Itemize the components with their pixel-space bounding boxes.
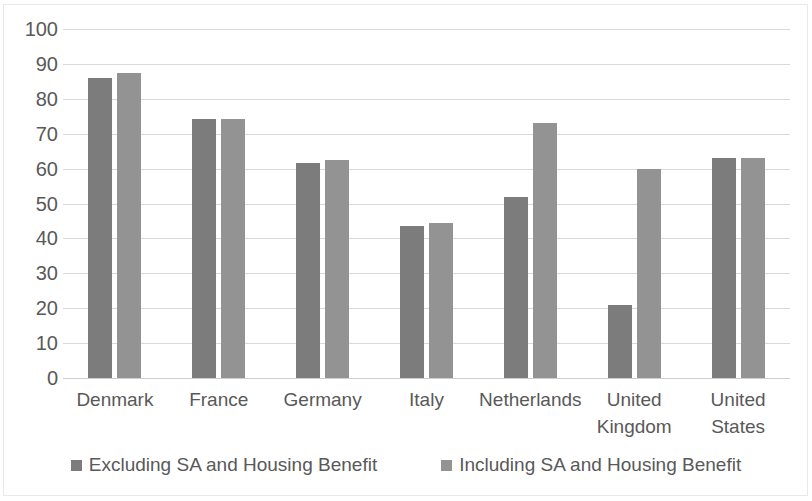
y-axis-tick-label: 10: [0, 333, 58, 353]
x-axis-tick-label: Germany: [271, 386, 375, 413]
y-axis: 1009080706050403020100: [0, 29, 58, 378]
y-axis-tick-label: 60: [0, 159, 58, 179]
y-axis-tick-label: 80: [0, 89, 58, 109]
x-axis-tick-label: France: [167, 386, 271, 413]
bar: [88, 78, 112, 378]
chart-legend: Excluding SA and Housing BenefitIncludin…: [0, 455, 812, 474]
bar: [296, 163, 320, 378]
x-axis-tick-label: Netherlands: [478, 386, 582, 413]
legend-swatch-icon: [71, 460, 82, 471]
y-axis-tick-label: 50: [0, 194, 58, 214]
x-axis-tick-label: United Kingdom: [582, 386, 686, 440]
bar: [637, 169, 661, 378]
bar: [221, 119, 245, 378]
bar: [429, 223, 453, 378]
bar-group: [167, 29, 271, 378]
bar-group: [271, 29, 375, 378]
x-axis-tick-label: Italy: [375, 386, 479, 413]
bar: [712, 158, 736, 378]
x-axis-tick-label: United States: [686, 386, 790, 440]
legend-swatch-icon: [441, 460, 452, 471]
bar-group: [686, 29, 790, 378]
bar-chart: 1009080706050403020100 DenmarkFranceGerm…: [0, 0, 812, 501]
gridline: [63, 378, 790, 379]
bar: [192, 119, 216, 378]
y-axis-tick-label: 0: [0, 368, 58, 388]
legend-label: Including SA and Housing Benefit: [459, 455, 741, 474]
bar: [400, 226, 424, 378]
bar: [117, 73, 141, 378]
bar-group: [582, 29, 686, 378]
legend-entry: Excluding SA and Housing Benefit: [71, 455, 377, 474]
y-axis-tick-label: 30: [0, 263, 58, 283]
y-axis-tick-label: 20: [0, 298, 58, 318]
bar-group: [375, 29, 479, 378]
y-axis-tick-label: 40: [0, 228, 58, 248]
y-axis-tick-label: 100: [0, 19, 58, 39]
x-axis: DenmarkFranceGermanyItalyNetherlandsUnit…: [63, 386, 790, 446]
bar: [741, 158, 765, 378]
bar: [533, 123, 557, 378]
y-axis-tick-label: 70: [0, 124, 58, 144]
legend-label: Excluding SA and Housing Benefit: [89, 455, 377, 474]
plot-area: [63, 29, 790, 378]
bar-group: [478, 29, 582, 378]
bar: [608, 305, 632, 378]
bar: [325, 160, 349, 378]
bar: [504, 197, 528, 378]
y-axis-tick-label: 90: [0, 54, 58, 74]
bar-group: [63, 29, 167, 378]
legend-entry: Including SA and Housing Benefit: [441, 455, 741, 474]
x-axis-tick-label: Denmark: [63, 386, 167, 413]
